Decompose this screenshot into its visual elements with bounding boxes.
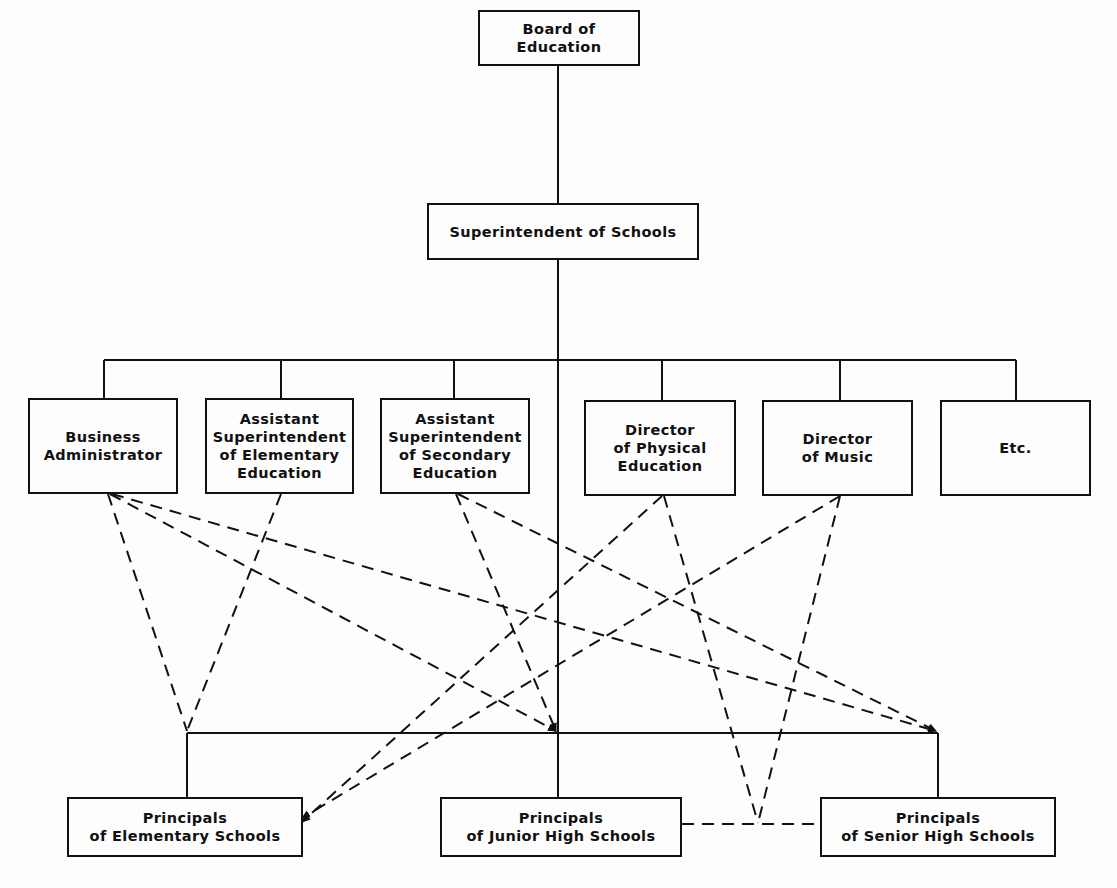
node-asst-supt-elementary: Assistant Superintendent of Elementary E… bbox=[205, 398, 354, 494]
node-superintendent: Superintendent of Schools bbox=[427, 203, 699, 260]
node-label: Director of Physical Education bbox=[613, 421, 706, 475]
node-etc: Etc. bbox=[940, 400, 1091, 496]
node-principals-junior-high: Principals of Junior High Schools bbox=[440, 797, 682, 857]
node-label: Business Administrator bbox=[44, 428, 163, 464]
node-label: Principals of Elementary Schools bbox=[90, 809, 281, 845]
node-label: Principals of Junior High Schools bbox=[466, 809, 655, 845]
node-label: Assistant Superintendent of Secondary Ed… bbox=[388, 410, 522, 482]
node-business-administrator: Business Administrator bbox=[28, 398, 178, 494]
dashed-advisory-lines bbox=[108, 494, 936, 824]
node-label: Assistant Superintendent of Elementary E… bbox=[213, 410, 347, 482]
node-asst-supt-secondary: Assistant Superintendent of Secondary Ed… bbox=[380, 398, 530, 494]
node-director-physical-education: Director of Physical Education bbox=[584, 400, 736, 496]
node-director-music: Director of Music bbox=[762, 400, 913, 496]
node-label: Etc. bbox=[999, 439, 1032, 457]
node-label: Superintendent of Schools bbox=[449, 223, 676, 241]
node-label: Principals of Senior High Schools bbox=[841, 809, 1035, 845]
node-label: Director of Music bbox=[802, 430, 873, 466]
node-label: Board of Education bbox=[484, 20, 634, 56]
node-board-of-education: Board of Education bbox=[478, 10, 640, 66]
node-principals-senior-high: Principals of Senior High Schools bbox=[820, 797, 1056, 857]
node-principals-elementary: Principals of Elementary Schools bbox=[67, 797, 303, 857]
